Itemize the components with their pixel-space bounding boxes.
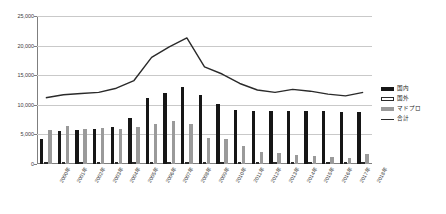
bar-group <box>108 16 126 164</box>
legend-label: 合計 <box>397 116 409 122</box>
x-axis-tick-label: 2017年 <box>357 166 371 184</box>
bar-group <box>231 16 249 164</box>
y-axis-tick-mark <box>34 164 37 165</box>
bar-国外 <box>344 162 347 164</box>
legend-swatch <box>381 97 394 101</box>
x-axis-tick-label: 2008年 <box>198 166 212 184</box>
chart-container: 05,00010,00015,00020,00025,000 2000年2001… <box>0 0 446 214</box>
bar-マドプロ <box>189 124 192 164</box>
y-axis-tick-label: 0 <box>0 161 34 167</box>
bar-国内 <box>322 111 325 164</box>
legend-label: マドプロ <box>397 106 421 112</box>
bar-group <box>301 16 319 164</box>
bar-マドプロ <box>348 158 351 165</box>
bar-マドプロ <box>260 152 263 164</box>
bar-国内 <box>287 111 290 164</box>
x-axis-tick-label: 2001年 <box>75 166 89 184</box>
x-axis-tick-label: 2015年 <box>322 166 336 184</box>
bar-group <box>160 16 178 164</box>
legend-label: 国内 <box>397 86 409 92</box>
bar-国外 <box>273 162 276 164</box>
bar-マドプロ <box>119 129 122 164</box>
x-axis-tick-label: 2004年 <box>128 166 142 184</box>
bar-国内 <box>128 118 131 164</box>
bar-マドプロ <box>48 130 51 164</box>
y-axis-tick-label: 5,000 <box>0 131 34 137</box>
bar-国内 <box>181 87 184 164</box>
legend-label: 国外 <box>397 96 409 102</box>
x-axis-tick-label: 2009年 <box>216 166 230 184</box>
bar-マドプロ <box>313 156 316 164</box>
bar-国内 <box>340 112 343 164</box>
x-axis-tick-label: 2006年 <box>163 166 177 184</box>
bar-group <box>72 16 90 164</box>
x-axis-tick-label: 2016年 <box>339 166 353 184</box>
bar-マドプロ <box>330 157 333 164</box>
bar-マドプロ <box>365 154 368 164</box>
bar-国内 <box>199 95 202 164</box>
bar-国外 <box>220 162 223 164</box>
bar-マドプロ <box>136 127 139 164</box>
bar-国内 <box>111 127 114 164</box>
bar-group <box>213 16 231 164</box>
legend-item-合計: 合計 <box>381 114 443 124</box>
bar-マドプロ <box>172 121 175 164</box>
x-axis-tick-label: 2005年 <box>145 166 159 184</box>
bar-group <box>196 16 214 164</box>
bar-group <box>90 16 108 164</box>
legend-item-国内: 国内 <box>381 84 443 94</box>
y-axis: 05,00010,00015,00020,00025,000 <box>0 16 34 164</box>
bar-group <box>354 16 372 164</box>
bar-group <box>337 16 355 164</box>
bar-国外 <box>185 162 188 164</box>
x-axis-tick-label: 2018年 <box>374 166 388 184</box>
bar-マドプロ <box>101 128 104 164</box>
bar-group <box>125 16 143 164</box>
bar-groups <box>37 16 372 164</box>
bar-国外 <box>115 162 118 164</box>
bar-国外 <box>167 162 170 164</box>
y-axis-tick-label: 10,000 <box>0 102 34 108</box>
legend-item-マドプロ: マドプロ <box>381 104 443 114</box>
bar-国外 <box>238 162 241 164</box>
bar-国内 <box>93 129 96 164</box>
bar-国内 <box>216 104 219 164</box>
bar-group <box>55 16 73 164</box>
bar-マドプロ <box>66 126 69 164</box>
bar-group <box>266 16 284 164</box>
bar-国内 <box>357 112 360 164</box>
bar-国外 <box>308 162 311 164</box>
bar-国内 <box>252 111 255 164</box>
legend-swatch <box>381 119 394 120</box>
bar-国内 <box>163 93 166 164</box>
bar-国外 <box>79 162 82 164</box>
bar-国外 <box>203 162 206 164</box>
bar-group <box>284 16 302 164</box>
bar-group <box>143 16 161 164</box>
bar-group <box>37 16 55 164</box>
bar-マドプロ <box>154 124 157 164</box>
bar-国内 <box>269 111 272 164</box>
y-axis-tick-label: 20,000 <box>0 43 34 49</box>
x-axis-tick-label: 2012年 <box>269 166 283 184</box>
x-axis-tick-label: 2000年 <box>57 166 71 184</box>
legend-item-国外: 国外 <box>381 94 443 104</box>
y-axis-tick-label: 25,000 <box>0 13 34 19</box>
chart-legend: 国内国外マドプロ合計 <box>381 84 443 124</box>
x-axis-tick-label: 2011年 <box>251 166 265 183</box>
bar-国外 <box>291 162 294 164</box>
bar-group <box>319 16 337 164</box>
x-axis-tick-label: 2010年 <box>233 166 247 184</box>
bar-国外 <box>361 162 364 164</box>
plot-area <box>37 16 372 164</box>
bar-マドプロ <box>295 155 298 164</box>
bar-国外 <box>326 162 329 164</box>
x-axis-tick-label: 2003年 <box>110 166 124 184</box>
bar-国内 <box>40 139 43 164</box>
bar-国外 <box>62 162 65 164</box>
x-axis-tick-label: 2007年 <box>181 166 195 184</box>
bar-マドプロ <box>277 153 280 164</box>
bar-マドプロ <box>83 129 86 164</box>
bar-マドプロ <box>207 138 210 164</box>
bar-国内 <box>146 98 149 164</box>
